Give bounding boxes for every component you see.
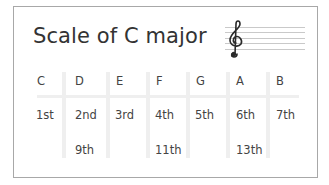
treble-clef-dot [231,53,235,57]
extension-a: 13th [236,143,262,157]
degree-g: 5th [195,108,214,122]
note-c: C [37,74,45,88]
degree-f: 4th [155,108,174,122]
note-g: G [196,74,205,88]
page-title: Scale of C major [33,22,207,50]
note-f: F [156,74,163,88]
degree-e: 3rd [115,108,134,122]
extension-f: 11th [155,143,181,157]
degree-c: 1st [36,108,54,122]
degree-a: 6th [236,108,255,122]
degree-d: 2nd [75,108,97,122]
treble-clef-staff [225,18,305,60]
note-a: A [236,74,244,88]
note-b: B [276,74,284,88]
degree-b: 7th [276,108,295,122]
note-e: E [116,74,123,88]
extension-d: 9th [75,143,94,157]
note-d: D [75,74,84,88]
